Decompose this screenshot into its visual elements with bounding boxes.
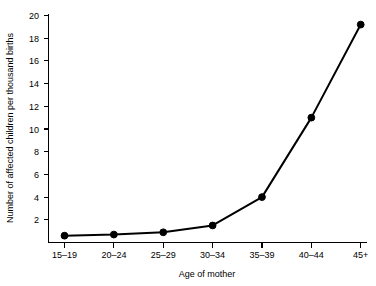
y-tick-labels: 20 18 16 14 12 10 8 6 4 2 (29, 11, 39, 225)
series-points (61, 21, 364, 239)
line-chart: 20 18 16 14 12 10 8 6 4 2 15–19 20–24 25… (0, 0, 376, 286)
data-point (110, 231, 117, 238)
x-tick-label-6: 45+ (353, 250, 368, 260)
y-axis-title: Number of affected children per thousand… (5, 33, 15, 223)
x-tick-label-0: 15–19 (52, 250, 77, 260)
y-tick-label-16: 16 (29, 56, 39, 66)
x-tick-label-4: 35–39 (249, 250, 274, 260)
y-tick-label-2: 2 (34, 215, 39, 225)
x-tick-marks (65, 243, 361, 248)
data-point (308, 114, 315, 121)
x-tick-label-5: 40–44 (299, 250, 324, 260)
chart-canvas: 20 18 16 14 12 10 8 6 4 2 15–19 20–24 25… (0, 0, 376, 286)
y-tick-label-20: 20 (29, 11, 39, 21)
data-point (160, 229, 167, 236)
data-point (209, 222, 216, 229)
data-point (259, 194, 266, 201)
y-tick-label-4: 4 (34, 193, 39, 203)
x-tick-label-3: 30–34 (200, 250, 225, 260)
x-tick-label-2: 25–29 (151, 250, 176, 260)
series-line (65, 25, 361, 236)
y-tick-label-6: 6 (34, 170, 39, 180)
data-point (61, 232, 68, 239)
y-tick-label-14: 14 (29, 79, 39, 89)
y-tick-label-10: 10 (29, 125, 39, 135)
x-tick-labels: 15–19 20–24 25–29 30–34 35–39 40–44 45+ (52, 250, 368, 260)
data-point (357, 21, 364, 28)
x-axis-title: Age of mother (179, 269, 236, 279)
y-tick-label-18: 18 (29, 34, 39, 44)
y-tick-label-8: 8 (34, 147, 39, 157)
x-tick-label-1: 20–24 (101, 250, 126, 260)
y-tick-marks (44, 16, 49, 220)
y-tick-label-12: 12 (29, 102, 39, 112)
